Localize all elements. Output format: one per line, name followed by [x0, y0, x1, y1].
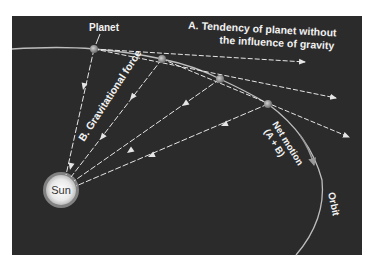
sun-label: Sun	[51, 184, 71, 196]
planet-2	[158, 55, 166, 63]
planet-label: Planet	[89, 22, 120, 33]
orbit-diagram: Sun Planet A. Tendency of planet without…	[0, 0, 373, 268]
planet-1	[90, 45, 98, 53]
planet-4	[264, 100, 272, 108]
planet-3	[216, 75, 224, 83]
planet-pointer	[96, 34, 100, 44]
orbit-label: Orbit	[326, 191, 342, 217]
